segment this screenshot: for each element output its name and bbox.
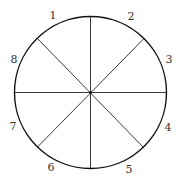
center-point: [89, 91, 92, 94]
label-3: 3: [166, 53, 173, 66]
label-4: 4: [165, 121, 172, 134]
divided-circle-diagram: 1 2 3 4 5 6 7 8: [0, 0, 187, 182]
label-6: 6: [48, 161, 55, 174]
label-5: 5: [126, 163, 133, 176]
label-1: 1: [50, 9, 57, 22]
label-2: 2: [128, 10, 135, 23]
label-7: 7: [10, 120, 17, 133]
label-8: 8: [11, 53, 18, 66]
